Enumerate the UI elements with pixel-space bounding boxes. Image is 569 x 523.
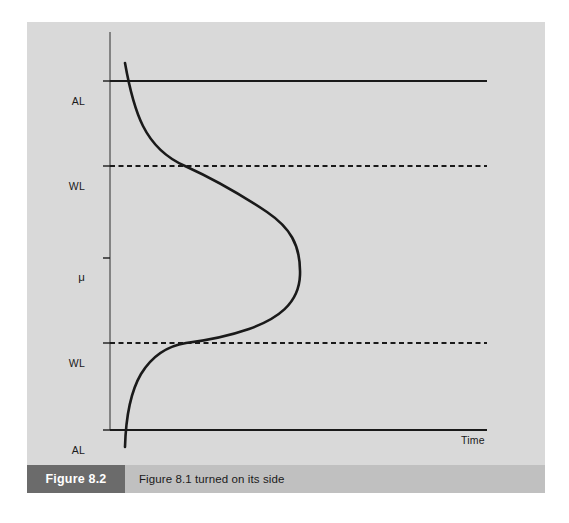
figure-number-text: Figure 8.2 [45,472,106,486]
figure-container: AL WL μ WL AL Time Figure 8.2 Figure 8.1… [0,0,569,523]
figure-number-block: Figure 8.2 [27,465,125,493]
axis-label-wl-lower: WL [39,358,85,369]
axis-label-time: Time [461,434,485,446]
plot-svg [27,22,545,465]
axis-label-al-upper: AL [39,96,85,107]
distribution-curve [125,63,300,447]
axis-label-mu: μ [39,272,85,283]
axis-label-al-lower: AL [39,445,85,456]
plot-panel: AL WL μ WL AL Time [27,22,545,465]
axis-label-wl-upper: WL [39,181,85,192]
figure-caption-bar: Figure 8.2 Figure 8.1 turned on its side [27,465,545,493]
figure-caption-text: Figure 8.1 turned on its side [139,465,284,493]
